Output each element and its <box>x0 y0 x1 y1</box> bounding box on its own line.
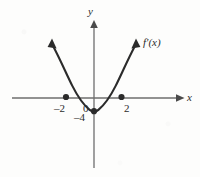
graph-figure: y x 0 –2 2 –4 f'(x) <box>0 0 200 177</box>
x-axis-label: x <box>187 92 192 103</box>
y-axis-arrow-icon <box>90 20 98 28</box>
y-axis-label: y <box>88 6 93 17</box>
y-tick-label-minus-4: –4 <box>74 112 85 123</box>
curve-right-arrow-icon <box>131 39 140 49</box>
point-vertex <box>91 108 97 114</box>
point-right-root <box>118 94 124 100</box>
curve-left-arrow-icon <box>48 39 57 49</box>
x-tick-label-minus-2: –2 <box>54 103 65 114</box>
point-left-root <box>63 94 69 100</box>
x-tick-label-2: 2 <box>124 103 130 114</box>
coordinate-plane <box>0 0 200 177</box>
x-axis-arrow-icon <box>176 94 185 102</box>
curve-label: f'(x) <box>143 37 161 48</box>
